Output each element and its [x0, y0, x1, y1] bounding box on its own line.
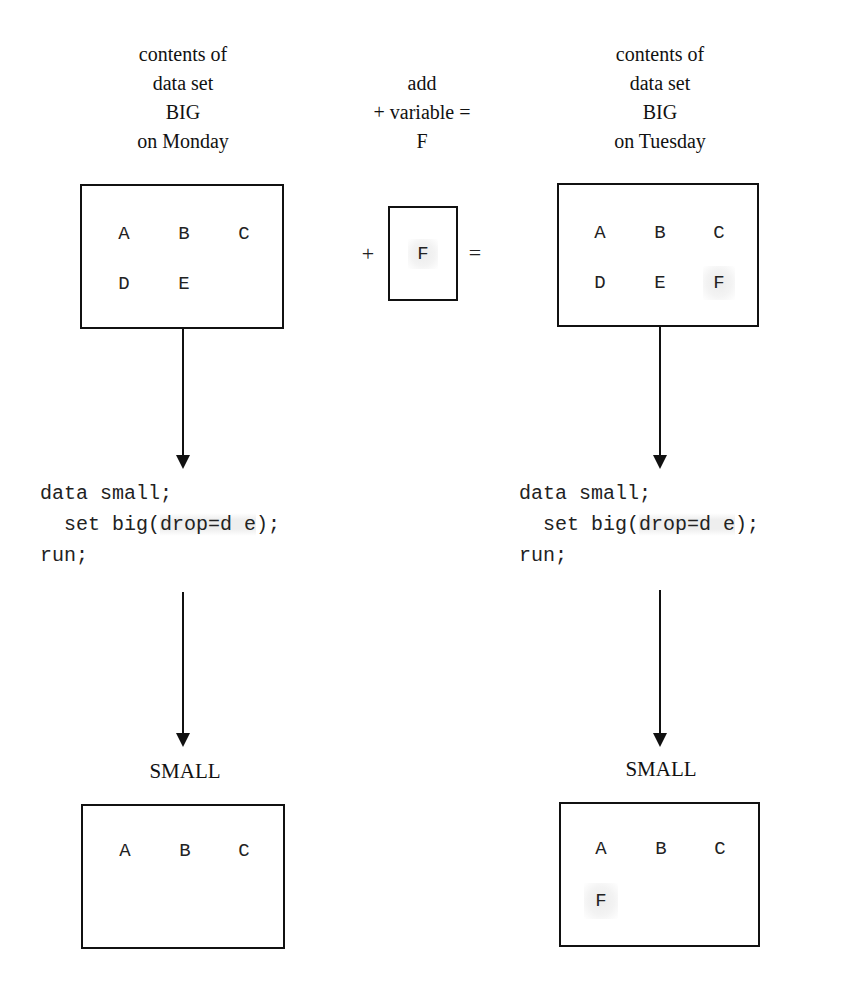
new-variable-box: F: [388, 206, 458, 301]
add-variable-header: add + variable = F: [342, 69, 502, 156]
variable-a: A: [588, 222, 612, 244]
header-line: BIG: [560, 98, 760, 127]
variable-c: C: [232, 223, 256, 245]
variable-e: E: [172, 273, 196, 295]
header-line: data set: [560, 69, 760, 98]
equals-sign: =: [469, 240, 481, 266]
arrow-shaft: [659, 590, 661, 734]
header-line: contents of: [560, 40, 760, 69]
plus-sign: +: [362, 241, 374, 267]
header-line: + variable =: [342, 98, 502, 127]
down-arrow-icon: [176, 733, 190, 747]
tuesday-small-label: SMALL: [625, 757, 696, 782]
variable-a: A: [112, 223, 136, 245]
tuesday-small-dataset-box: A B C F: [559, 802, 760, 947]
code-line: set big(drop=d e);: [40, 509, 280, 540]
tuesday-big-dataset-box: A B C D E F: [557, 183, 759, 327]
header-line: BIG: [83, 98, 283, 127]
variable-a: A: [589, 838, 613, 860]
variable-c: C: [708, 838, 732, 860]
variable-d: D: [588, 272, 612, 294]
arrow-shaft: [182, 592, 184, 734]
monday-sas-code: data small; set big(drop=d e);run;: [40, 478, 280, 571]
variable-b: B: [649, 838, 673, 860]
variable-f: F: [408, 239, 438, 269]
code-line: run;: [519, 540, 759, 571]
down-arrow-icon: [653, 455, 667, 469]
drop-option: drop=d e: [639, 513, 735, 536]
variable-b: B: [648, 222, 672, 244]
variable-f-new: F: [703, 266, 735, 300]
code-line: data small;: [519, 478, 759, 509]
code-line: run;: [40, 540, 280, 571]
monday-small-dataset-box: A B C: [81, 804, 285, 949]
down-arrow-icon: [176, 455, 190, 469]
code-text: );: [735, 513, 759, 536]
tuesday-sas-code: data small; set big(drop=d e);run;: [519, 478, 759, 571]
down-arrow-icon: [653, 733, 667, 747]
arrow-shaft: [659, 326, 661, 456]
code-line: data small;: [40, 478, 280, 509]
variable-b: B: [172, 223, 196, 245]
monday-small-label: SMALL: [149, 759, 220, 784]
code-text: set big(: [519, 513, 639, 536]
tuesday-header: contents of data set BIG on Tuesday: [560, 40, 760, 156]
arrow-shaft: [182, 328, 184, 456]
header-line: data set: [83, 69, 283, 98]
variable-c: C: [232, 840, 256, 862]
monday-header: contents of data set BIG on Monday: [83, 40, 283, 156]
header-line: add: [342, 69, 502, 98]
variable-b: B: [173, 840, 197, 862]
variable-e: E: [648, 272, 672, 294]
header-line: F: [342, 127, 502, 156]
code-text: );: [256, 513, 280, 536]
code-line: set big(drop=d e);: [519, 509, 759, 540]
code-text: set big(: [40, 513, 160, 536]
monday-big-dataset-box: A B C D E: [80, 184, 284, 329]
variable-f-new: F: [584, 883, 618, 919]
header-line: on Monday: [83, 127, 283, 156]
variable-c: C: [707, 222, 731, 244]
variable-a: A: [113, 840, 137, 862]
header-line: on Tuesday: [560, 127, 760, 156]
header-line: contents of: [83, 40, 283, 69]
drop-option: drop=d e: [160, 513, 256, 536]
variable-d: D: [112, 273, 136, 295]
